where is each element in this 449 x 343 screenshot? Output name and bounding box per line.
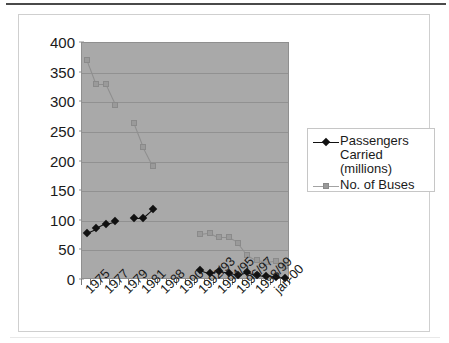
data-point-marker: [111, 217, 119, 225]
y-axis-tick-label: 300: [50, 93, 75, 110]
chart-frame: 400350300250200150100500 197519771979198…: [18, 14, 430, 332]
square-marker-icon: [312, 179, 340, 194]
y-axis-tick-label: 50: [58, 241, 75, 258]
gridline: [82, 191, 288, 192]
data-point-marker: [216, 234, 222, 240]
data-point-marker: [226, 234, 232, 240]
y-axis-tick-label: 200: [50, 152, 75, 169]
x-axis-labels: 1975197719791981198819901992/931994/9519…: [19, 286, 431, 343]
data-point-marker: [112, 102, 118, 108]
legend-label-line3: (millions): [340, 162, 409, 176]
data-point-marker: [103, 81, 109, 87]
gridline: [82, 162, 288, 163]
legend-label-line2: Carried: [340, 148, 409, 162]
page-top-rule: [6, 3, 446, 5]
y-axis-tick-label: 100: [50, 211, 75, 228]
legend-item-buses: No. of Buses: [312, 178, 430, 194]
y-axis-tick-label: 0: [67, 271, 75, 288]
data-point-marker: [131, 120, 137, 126]
y-axis-tick-label: 350: [50, 63, 75, 80]
diamond-marker-icon: [312, 135, 340, 150]
data-point-marker: [82, 228, 90, 236]
data-point-marker: [93, 81, 99, 87]
data-point-marker: [235, 240, 241, 246]
y-axis: 400350300250200150100500: [37, 42, 79, 279]
data-point-marker: [84, 57, 90, 63]
gridline: [82, 250, 288, 251]
y-axis-tick-label: 150: [50, 182, 75, 199]
legend-label-passengers: Passengers Carried (millions): [340, 134, 409, 176]
plot-area: [81, 42, 289, 279]
data-point-marker: [150, 163, 156, 169]
legend-item-passengers: Passengers Carried (millions): [312, 134, 430, 176]
gridline: [82, 132, 288, 133]
y-axis-tick-label: 250: [50, 122, 75, 139]
legend-label-line1: No. of Buses: [340, 178, 414, 192]
data-point-marker: [140, 144, 146, 150]
page-bottom-rule: [10, 337, 440, 338]
x-axis-tick: [81, 279, 82, 285]
gridline: [82, 73, 288, 74]
data-point-marker: [207, 230, 213, 236]
data-point-marker: [197, 231, 203, 237]
chart-legend: Passengers Carried (millions) No. of Bus…: [307, 128, 435, 192]
legend-label-line1: Passengers: [340, 134, 409, 148]
y-axis-tick-label: 400: [50, 34, 75, 51]
legend-label-buses: No. of Buses: [340, 178, 414, 192]
